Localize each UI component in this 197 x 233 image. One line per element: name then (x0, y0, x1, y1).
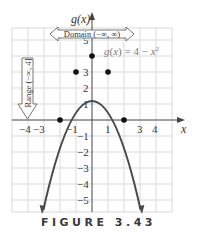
curve-left-arrow-icon (40, 205, 46, 214)
x-tick-label: 4 (152, 123, 158, 135)
y-tick-label: −2 (77, 146, 89, 158)
y-tick-label: −3 (77, 162, 89, 174)
graph: g(x) x −4 −3 −1 1 3 4 5 3 2 1 −1 −2 −3 −… (0, 0, 197, 233)
point-2-0 (121, 117, 127, 123)
y-axis-label: g(x) (71, 12, 90, 26)
x-axis-label: x (180, 122, 187, 136)
y-tick-label: −1 (77, 130, 89, 142)
x-tick-label: −4 (19, 123, 31, 135)
point-0-4 (89, 53, 95, 59)
y-tick-label: 3 (83, 66, 89, 78)
x-tick-label: 1 (105, 123, 111, 135)
range-label: Range (−∞, 4] (23, 58, 33, 107)
domain-label: Domain (−∞, ∞) (64, 29, 121, 39)
equation-label: g(xg(x) = 4 − x) = 4 − x2 (104, 45, 160, 58)
domain-annotation: Domain (−∞, ∞) (50, 27, 134, 41)
point-1-3 (105, 69, 111, 75)
y-tick-label: −5 (77, 194, 89, 206)
x-tick-label: 3 (137, 123, 143, 135)
point-neg1-3 (73, 69, 79, 75)
y-tick-label: 2 (83, 82, 89, 94)
x-tick-label: −3 (33, 123, 45, 135)
point-neg2-0 (57, 117, 63, 123)
figure-caption: FIGURE 3.43 (0, 216, 197, 229)
curve-right-arrow-icon (139, 205, 145, 214)
y-tick-label: −4 (77, 178, 89, 190)
